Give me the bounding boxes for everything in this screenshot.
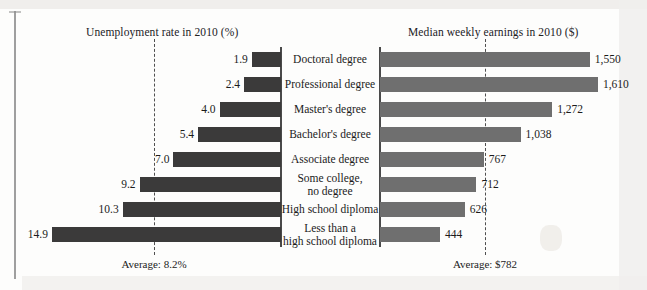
scan-artifact-bottom — [22, 276, 647, 290]
earnings-value-label: 712 — [481, 176, 498, 192]
chart-row: 7.0767Associate degree — [0, 147, 647, 172]
chart-row: 4.01,272Master's degree — [0, 97, 647, 122]
category-label-line: Professional degree — [285, 78, 375, 91]
earnings-value-label: 1,038 — [526, 126, 552, 142]
right-panel-title: Median weekly earnings in 2010 ($) — [408, 26, 578, 38]
unemployment-value-label: 2.4 — [226, 76, 240, 92]
education-pays-figure: Unemployment rate in 2010 (%) Median wee… — [0, 0, 647, 290]
chart-row: 5.41,038Bachelor's degree — [0, 122, 647, 147]
unemployment-value-label: 9.2 — [121, 176, 135, 192]
earnings-value-label: 1,610 — [603, 76, 629, 92]
chart-row: 14.9444Less than ahigh school diploma — [0, 222, 647, 247]
unemployment-bar — [220, 102, 281, 117]
unemployment-value-label: 1.9 — [233, 51, 247, 67]
unemployment-bar — [173, 152, 281, 167]
chart-row: 2.41,610Professional degree — [0, 72, 647, 97]
category-label: Professional degree — [286, 72, 374, 97]
unemployment-bar — [52, 227, 281, 242]
unemployment-bar — [198, 127, 281, 142]
unemployment-value-label: 10.3 — [99, 201, 119, 217]
category-label: High school diploma — [286, 197, 374, 222]
earnings-bar — [380, 152, 484, 167]
chart-row: 10.3626High school diploma — [0, 197, 647, 222]
left-panel-title: Unemployment rate in 2010 (%) — [86, 26, 238, 38]
category-label-line: Less than a — [304, 222, 356, 235]
earnings-bar — [380, 202, 465, 217]
category-label: Doctoral degree — [286, 47, 374, 72]
earnings-value-label: 1,550 — [595, 51, 621, 67]
unemployment-bar — [140, 177, 281, 192]
unemployment-bar — [252, 52, 281, 67]
category-label: Associate degree — [286, 147, 374, 172]
scan-artifact-top — [0, 0, 647, 9]
category-label: Less than ahigh school diploma — [286, 222, 374, 247]
chart-row: 1.91,550Doctoral degree — [0, 47, 647, 72]
category-label: Some college,no degree — [286, 172, 374, 197]
earnings-bar — [380, 52, 590, 67]
unemployment-value-label: 5.4 — [180, 126, 194, 142]
earnings-value-label: 1,272 — [557, 101, 583, 117]
earnings-bar — [380, 102, 552, 117]
category-label-line: Some college, — [297, 172, 362, 185]
earnings-bar — [380, 227, 440, 242]
category-label-line: Master's degree — [294, 103, 366, 116]
unemployment-bar — [123, 202, 281, 217]
earnings-value-label: 626 — [470, 201, 487, 217]
earnings-bar — [380, 177, 476, 192]
category-label-line: high school diploma — [283, 235, 377, 248]
unemployment-value-label: 7.0 — [155, 151, 169, 167]
chart-row: 9.2712Some college,no degree — [0, 172, 647, 197]
category-label: Master's degree — [286, 97, 374, 122]
category-label-line: Associate degree — [291, 153, 369, 166]
chart-plot-area: 1.91,550Doctoral degree2.41,610Professio… — [0, 47, 647, 247]
right-average-caption: Average: $782 — [453, 258, 517, 270]
earnings-bar — [380, 77, 598, 92]
unemployment-value-label: 4.0 — [201, 101, 215, 117]
category-label-line: High school diploma — [282, 203, 378, 216]
category-label: Bachelor's degree — [286, 122, 374, 147]
category-label-line: no degree — [307, 185, 352, 198]
unemployment-bar — [244, 77, 281, 92]
left-average-caption: Average: 8.2% — [121, 258, 186, 270]
earnings-bar — [380, 127, 521, 142]
earnings-value-label: 767 — [489, 151, 506, 167]
unemployment-value-label: 14.9 — [28, 226, 48, 242]
earnings-value-label: 444 — [445, 226, 462, 242]
category-label-line: Bachelor's degree — [289, 128, 371, 141]
category-label-line: Doctoral degree — [293, 53, 367, 66]
